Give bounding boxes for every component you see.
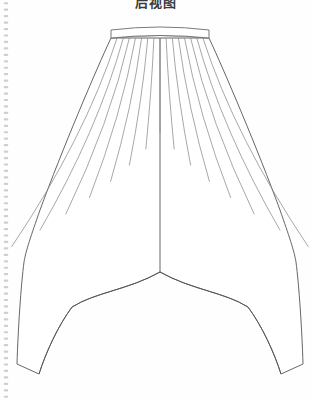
waistband-upper-edge (111, 27, 209, 38)
page-title-text: 后视图 (0, 0, 311, 9)
harem-trousers-technical-flat (0, 0, 311, 400)
page-title: 后视图 (0, 0, 311, 12)
sketchbook-page: 后视图 (0, 0, 311, 400)
